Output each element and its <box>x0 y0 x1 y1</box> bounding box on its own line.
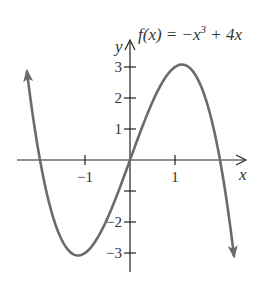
y-axis-label: y <box>113 37 123 56</box>
function-graph: −11 321−2−3 x y f(x) = −x3 + 4x <box>0 0 276 289</box>
x-axis-label: x <box>238 165 247 184</box>
x-tick-label: 1 <box>171 169 179 185</box>
y-tick-label: −3 <box>106 245 122 261</box>
x-tick-label: −1 <box>77 169 93 185</box>
function-label: f(x) = −x3 + 4x <box>138 23 243 44</box>
y-tick-label: 2 <box>115 90 123 106</box>
y-tick-label: 1 <box>115 121 123 137</box>
y-tick-label: 3 <box>115 59 123 75</box>
